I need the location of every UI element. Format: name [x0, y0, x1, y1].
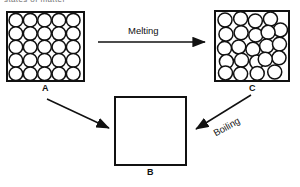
boiling-arrow-label: Boiling	[211, 115, 241, 138]
box-gas-b	[114, 96, 187, 166]
figure-canvas: states of matter A	[0, 0, 300, 187]
sublimation-arrow	[47, 99, 109, 128]
box-liquid-c	[214, 10, 290, 82]
melting-arrow-label: Melting	[128, 25, 159, 36]
liquid-particle-cluster	[216, 12, 288, 80]
solid-particle-lattice	[8, 13, 83, 80]
box-label-c: C	[249, 83, 256, 93]
box-label-a: A	[42, 83, 49, 93]
box-solid-a	[6, 11, 85, 82]
caption-fragment: states of matter	[4, 0, 66, 4]
box-label-b: B	[147, 167, 154, 177]
